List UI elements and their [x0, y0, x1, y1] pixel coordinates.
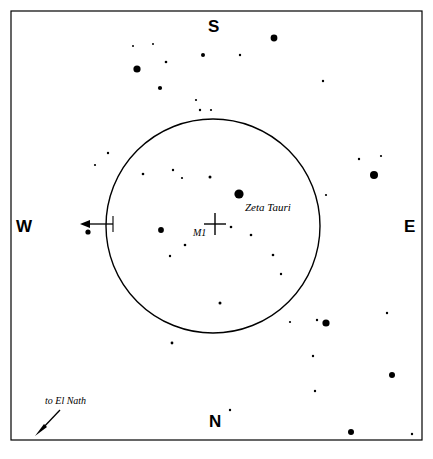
star-point: [370, 171, 378, 179]
star-label-zeta-tauri: Zeta Tauri: [245, 202, 291, 213]
star-point: [322, 80, 324, 82]
star-point: [133, 65, 140, 72]
star-point: [219, 302, 222, 305]
star-point: [230, 226, 233, 229]
star-point: [389, 372, 395, 378]
star-point: [234, 189, 243, 198]
star-point: [209, 176, 212, 179]
star-point: [107, 152, 109, 154]
star-point: [201, 53, 205, 57]
star-point: [358, 158, 360, 160]
star-point: [210, 109, 212, 111]
direction-label-el-nath: to El Nath: [45, 396, 86, 406]
cardinal-label-east: E: [404, 218, 416, 235]
star-point: [314, 390, 316, 392]
cardinal-label-north: N: [209, 413, 222, 430]
star-point: [158, 227, 164, 233]
star-point: [250, 234, 253, 237]
star-point: [348, 429, 354, 435]
star-point: [325, 194, 327, 196]
star-point: [158, 86, 162, 90]
star-point: [316, 319, 318, 321]
star-point: [165, 61, 168, 64]
star-chart: S N W E Zeta Tauri M1 to El Nath: [0, 0, 433, 459]
star-point: [271, 35, 278, 42]
star-point: [199, 109, 201, 111]
chart-frame-border: [11, 11, 422, 440]
star-point: [312, 355, 314, 357]
star-point: [272, 254, 275, 257]
star-point: [181, 177, 183, 179]
star-point: [195, 99, 197, 101]
star-point: [386, 312, 388, 314]
object-label-m1: M1: [193, 228, 206, 238]
star-point: [322, 319, 329, 326]
star-point: [152, 43, 154, 45]
star-point: [280, 273, 282, 275]
star-point: [142, 173, 145, 176]
star-point: [171, 342, 174, 345]
cardinal-label-south: S: [208, 18, 220, 35]
star-point: [411, 433, 413, 435]
star-point: [85, 229, 90, 234]
star-point: [289, 321, 291, 323]
star-point: [169, 255, 171, 257]
sky-field-svg: [0, 0, 433, 459]
star-point: [172, 169, 174, 171]
star-point: [94, 164, 96, 166]
star-point: [380, 155, 382, 157]
star-point: [239, 54, 241, 56]
star-point: [184, 244, 187, 247]
star-point: [229, 409, 231, 411]
star-point: [132, 45, 134, 47]
cardinal-label-west: W: [16, 218, 33, 235]
